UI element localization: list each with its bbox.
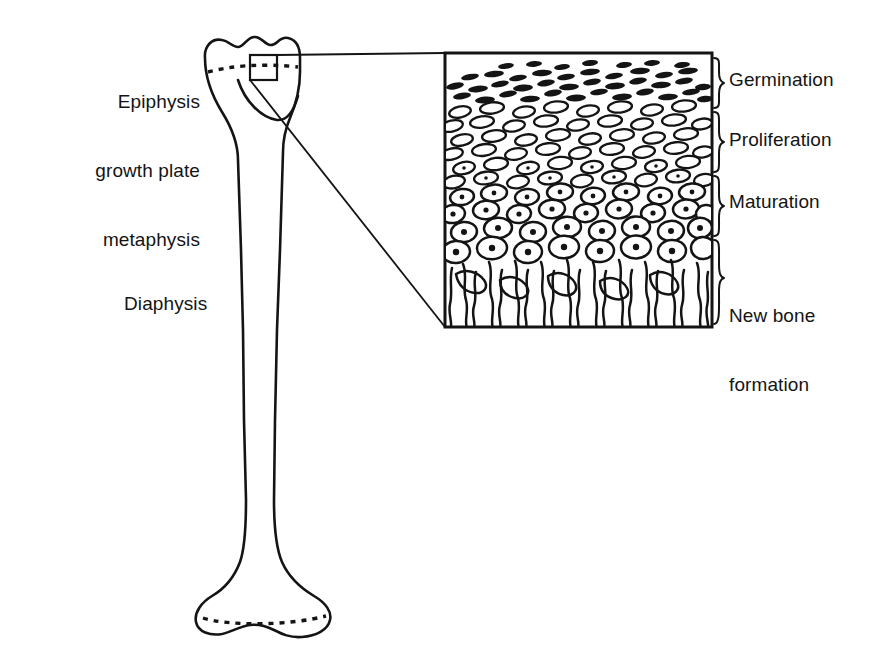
new-bone-label-line-2: formation xyxy=(729,373,815,396)
magnified-region-rect xyxy=(250,55,277,80)
zone-braces xyxy=(714,58,724,324)
proximal-growth-plate xyxy=(208,65,298,72)
bone-outline xyxy=(196,37,331,637)
brace-new-bone xyxy=(714,240,724,324)
brace-maturation xyxy=(714,176,724,236)
zone-label-germination: Germination xyxy=(729,68,834,91)
leader-line-top xyxy=(277,53,445,55)
growth-plate-inset xyxy=(440,53,717,328)
bone-growth-plate-figure: Epiphysis growth plate metaphysis Diaphy… xyxy=(0,0,880,666)
zone-label-maturation: Maturation xyxy=(729,190,820,213)
metaphysis-label-line: metaphysis xyxy=(60,228,200,251)
zone-label-new-bone-formation: New bone formation xyxy=(729,258,815,442)
diaphysis-label: Diaphysis xyxy=(124,292,207,315)
zone-label-proliferation: Proliferation xyxy=(729,128,832,151)
brace-germination xyxy=(714,58,724,108)
proximal-metaphysis-line xyxy=(238,80,298,120)
distal-growth-plate xyxy=(203,616,326,624)
bone-illustration xyxy=(196,37,331,637)
new-bone-label-line-1: New bone xyxy=(729,304,815,327)
epiphysis-label-line-1: Epiphysis xyxy=(60,90,200,113)
growth-plate-label-line: growth plate xyxy=(60,159,200,182)
epiphysis-label-group: Epiphysis growth plate metaphysis xyxy=(60,44,200,297)
brace-proliferation xyxy=(714,112,724,172)
